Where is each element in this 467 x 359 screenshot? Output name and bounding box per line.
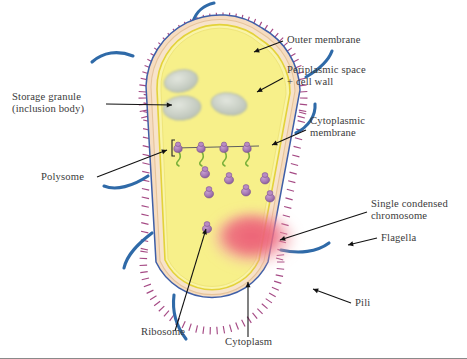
label-single-condensed-chromosome: Single condensed chromosome <box>371 198 448 223</box>
label-storage-granule: Storage granule (inclusion body) <box>12 91 84 116</box>
label-cytoplasmic-membrane: Cytoplasmic membrane <box>310 115 365 140</box>
label-pili: Pili <box>355 297 370 309</box>
label-periplasmic-space-cell-wall: Periplasmic space + cell wall <box>287 64 366 89</box>
bacterial-cell-diagram: Outer membrane Periplasmic space + cell … <box>0 0 467 359</box>
label-outer-membrane: Outer membrane <box>287 34 361 46</box>
label-polysome: Polysome <box>41 171 84 183</box>
label-ribosome: Ribosome <box>141 326 185 338</box>
label-flagella: Flagella <box>381 232 416 244</box>
label-cytoplasm: Cytoplasm <box>225 336 272 348</box>
